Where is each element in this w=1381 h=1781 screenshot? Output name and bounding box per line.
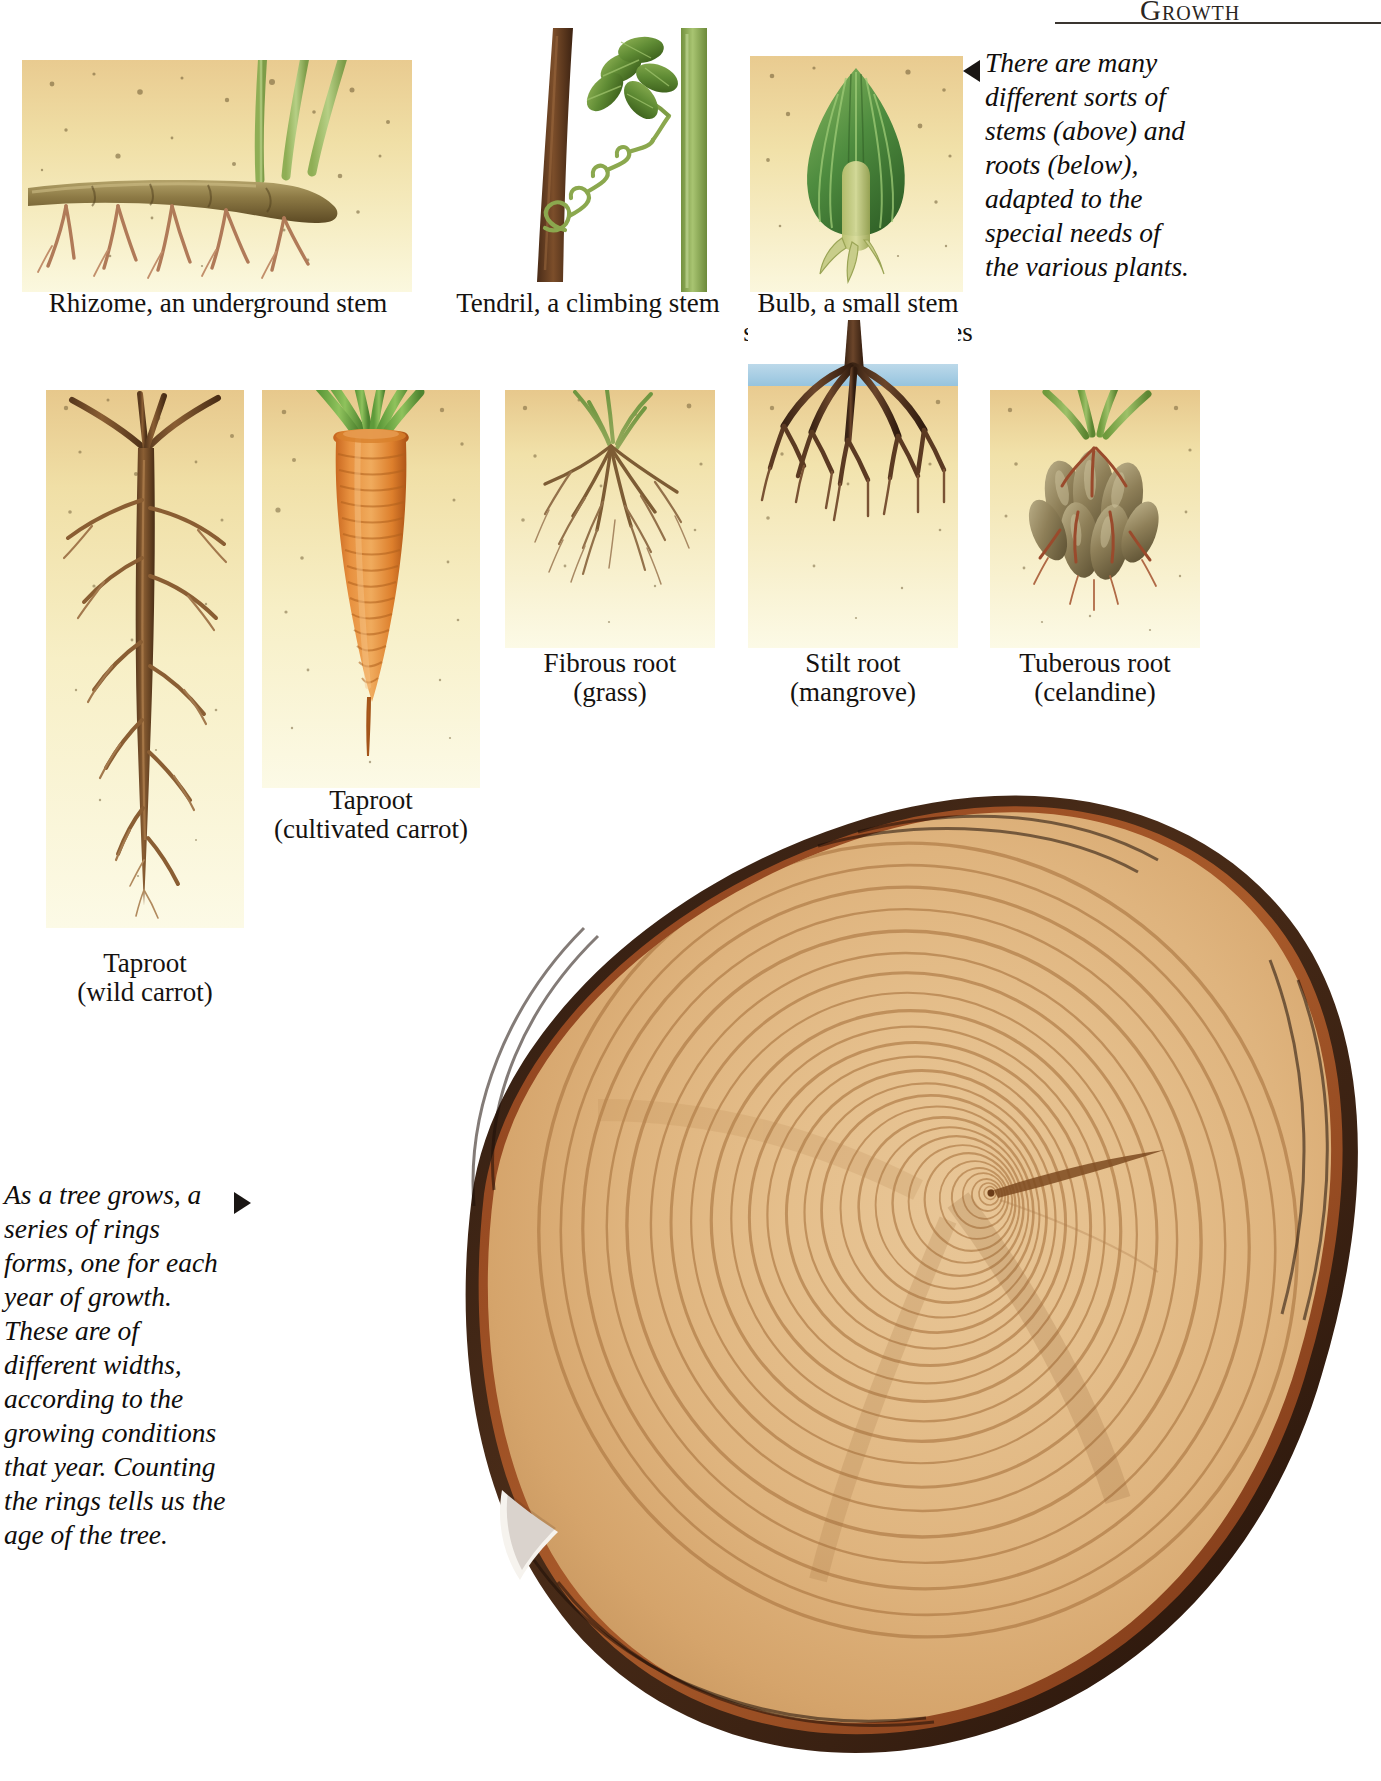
caption-fibrous-line1: Fibrous root bbox=[490, 648, 730, 678]
stilt-root-illustration bbox=[748, 320, 958, 648]
tendril-illustration bbox=[445, 20, 735, 292]
caption-stilt-line2: (mangrove) bbox=[738, 677, 968, 707]
tree-note-arrow-icon bbox=[234, 1192, 251, 1214]
caption-rhizome: Rhizome, an underground stem bbox=[12, 288, 424, 318]
stems-note-arrow-icon bbox=[963, 60, 980, 82]
rhizome-illustration bbox=[22, 60, 412, 292]
caption-bulb-line1: Bulb, a small stem bbox=[740, 288, 976, 318]
stems-roots-note: There are many different sorts of stems … bbox=[985, 46, 1195, 284]
tree-cross-section-illustration bbox=[258, 720, 1358, 1781]
caption-tuberous-line1: Tuberous root bbox=[980, 648, 1210, 678]
taproot-wild-illustration bbox=[46, 390, 244, 928]
caption-stilt-line1: Stilt root bbox=[738, 648, 968, 678]
bulb-illustration bbox=[750, 56, 963, 292]
caption-taproot-wild-line2: (wild carrot) bbox=[36, 977, 254, 1007]
caption-fibrous-line2: (grass) bbox=[490, 677, 730, 707]
tuberous-root-illustration bbox=[990, 390, 1200, 648]
header-rule bbox=[1055, 22, 1381, 24]
caption-tendril: Tendril, a climbing stem bbox=[430, 288, 746, 318]
fibrous-root-illustration bbox=[505, 390, 715, 648]
caption-taproot-wild-line1: Taproot bbox=[36, 948, 254, 978]
tree-rings-note: As a tree grows, a series of rings forms… bbox=[4, 1178, 226, 1551]
caption-tuberous-line2: (celandine) bbox=[980, 677, 1210, 707]
